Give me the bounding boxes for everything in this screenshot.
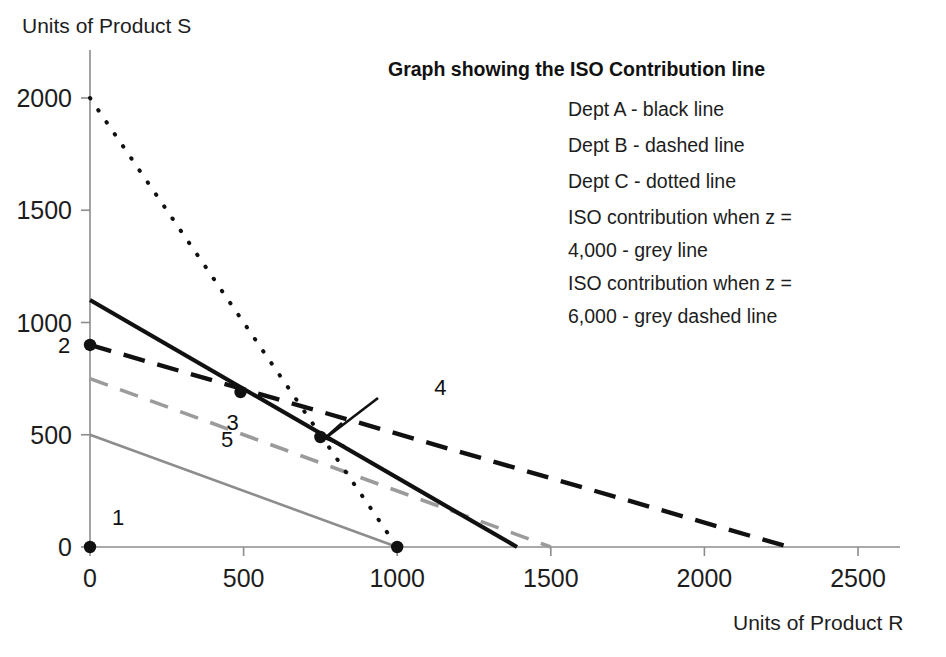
x-tick-label: 1000 (369, 564, 425, 592)
data-point-label-1: 1 (112, 505, 124, 530)
legend-item-dept-c: Dept C - dotted line (568, 170, 736, 192)
legend-item-iso-6000-line1: ISO contribution when z = (568, 272, 792, 294)
x-tick-label: 500 (223, 564, 265, 592)
x-axis-title: Units of Product R (733, 611, 903, 634)
series-line-dept-a (90, 300, 517, 547)
data-point-marker (391, 541, 403, 553)
x-axis-ticks: 05001000150020002500 (83, 547, 886, 592)
data-point-label-2: 2 (58, 333, 70, 358)
data-point-label-4: 4 (434, 375, 446, 400)
series-line-dept-c (90, 98, 397, 547)
y-axis-title: Units of Product S (22, 14, 191, 37)
legend-item-iso-4000-line1: ISO contribution when z = (568, 206, 792, 228)
y-tick-label: 2000 (16, 84, 72, 112)
data-point-marker (234, 386, 246, 398)
legend: Graph showing the ISO Contribution line … (388, 58, 792, 327)
y-axis-ticks: 0500100015002000 (16, 84, 90, 561)
chart-container: Units of Product S Units of Product R 05… (0, 0, 946, 657)
legend-title: Graph showing the ISO Contribution line (388, 58, 765, 80)
y-tick-label: 500 (30, 421, 72, 449)
legend-item-iso-4000-line2: 4,000 - grey line (568, 239, 708, 261)
y-tick-label: 1500 (16, 196, 72, 224)
data-point-label-5: 5 (221, 427, 233, 452)
x-tick-label: 2500 (830, 564, 886, 592)
legend-item-iso-6000-line2: 6,000 - grey dashed line (568, 305, 777, 327)
series-line-iso-6000 (90, 379, 551, 547)
data-point-marker (84, 339, 96, 351)
y-tick-label: 0 (58, 533, 72, 561)
legend-item-dept-b: Dept B - dashed line (568, 134, 745, 156)
iso-contribution-chart: Units of Product S Units of Product R 05… (0, 0, 946, 657)
x-tick-label: 2000 (677, 564, 733, 592)
data-point-marker (84, 541, 96, 553)
x-tick-label: 0 (83, 564, 97, 592)
x-tick-label: 1500 (523, 564, 579, 592)
legend-item-dept-a: Dept A - black line (568, 98, 724, 120)
